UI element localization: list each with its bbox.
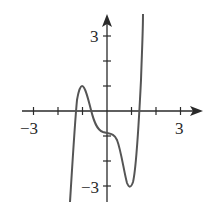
y-label-neg3: −3 (81, 178, 99, 197)
x-label-pos3: 3 (175, 119, 184, 138)
function-graph: −3 3 3 −3 (0, 0, 216, 215)
x-label-neg3: −3 (20, 119, 38, 138)
y-label-pos3: 3 (90, 27, 99, 46)
